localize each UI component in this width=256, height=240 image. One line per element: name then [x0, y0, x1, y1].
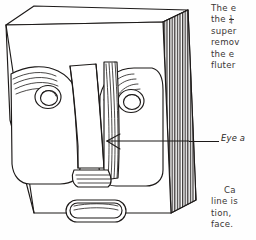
illustration-svg — [0, 0, 200, 240]
body-line-text: the — [211, 14, 229, 24]
fraction-denominator: 4 — [229, 20, 234, 25]
body-line: tion, — [211, 208, 256, 219]
left-cheek-flute — [11, 67, 80, 184]
body-line: line is — [211, 196, 256, 207]
body-paragraph-top: The e the 14 super remov the e fluter — [211, 3, 256, 72]
body-line: fluter — [211, 60, 256, 71]
nose-base — [72, 170, 111, 187]
carving-illustration — [0, 0, 200, 240]
body-line: face. — [211, 219, 256, 230]
body-line: The e — [211, 3, 256, 14]
body-paragraph-bottom: Ca line is tion, face. — [211, 185, 256, 231]
body-line: super — [211, 26, 256, 37]
body-line: Ca — [211, 185, 256, 196]
right-eye — [118, 90, 144, 113]
body-line: remov — [211, 37, 256, 48]
body-line: the e — [211, 49, 256, 60]
body-line-with-fraction: the 14 — [211, 14, 256, 25]
mouth — [66, 200, 126, 222]
page-canvas: Eye a The e the 14 super remov the e flu… — [0, 0, 256, 240]
callout-label-eye: Eye a — [221, 133, 245, 143]
callout-leader-line — [189, 141, 219, 142]
left-eye — [35, 86, 61, 109]
